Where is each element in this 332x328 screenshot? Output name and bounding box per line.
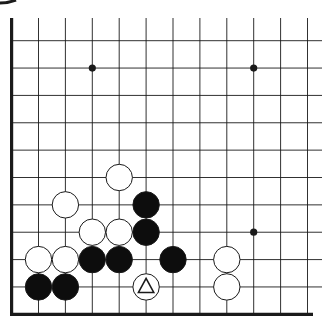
white-stone-disc xyxy=(214,274,240,300)
black-stone xyxy=(52,274,78,300)
black-stone-disc xyxy=(133,219,159,245)
white-stone xyxy=(214,274,240,300)
white-stone xyxy=(79,219,105,245)
black-stone-disc xyxy=(79,246,105,272)
star-point xyxy=(89,64,96,71)
black-stone-disc xyxy=(160,246,186,272)
white-stone-disc xyxy=(79,219,105,245)
black-stone xyxy=(25,274,51,300)
corner-arc-decoration xyxy=(0,0,16,3)
white-stone xyxy=(52,246,78,272)
star-point xyxy=(250,64,257,71)
black-stone-disc xyxy=(52,274,78,300)
go-board xyxy=(0,0,332,328)
black-stone xyxy=(160,246,186,272)
white-stone-disc xyxy=(52,192,78,218)
white-stone xyxy=(25,246,51,272)
white-stone xyxy=(214,246,240,272)
white-stone-disc xyxy=(106,219,132,245)
black-stone xyxy=(106,246,132,272)
black-stone xyxy=(133,219,159,245)
white-stone-disc xyxy=(214,246,240,272)
white-stone xyxy=(106,219,132,245)
star-point xyxy=(250,229,257,236)
black-stone-disc xyxy=(106,246,132,272)
white-stone xyxy=(133,274,159,300)
black-stone-disc xyxy=(25,274,51,300)
black-stone-disc xyxy=(133,192,159,218)
white-stone xyxy=(52,192,78,218)
white-stone-disc xyxy=(52,246,78,272)
white-stone-disc xyxy=(25,246,51,272)
white-stone xyxy=(106,164,132,190)
white-stone-disc xyxy=(106,164,132,190)
black-stone xyxy=(79,246,105,272)
black-stone xyxy=(133,192,159,218)
